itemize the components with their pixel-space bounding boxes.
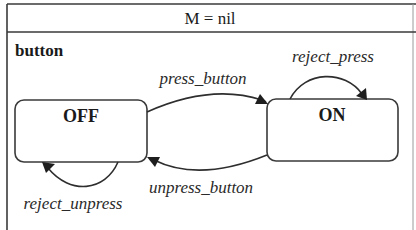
state-off[interactable]: OFF — [15, 100, 147, 162]
state-on[interactable]: ON — [267, 99, 398, 161]
transition-reject-press[interactable]: reject_press — [290, 47, 374, 100]
transition-reject-unpress[interactable]: reject_unpress — [24, 162, 123, 213]
transition-press-button[interactable]: press_button — [147, 69, 268, 112]
state-on-label: ON — [319, 105, 346, 125]
transition-unpress-button[interactable]: unpress_button — [147, 155, 267, 197]
reject-press-edge[interactable] — [290, 77, 362, 99]
state-off-label: OFF — [63, 106, 99, 126]
press-button-label: press_button — [158, 69, 246, 88]
region-label: button — [15, 41, 64, 60]
reject-unpress-arrowhead-icon — [42, 162, 55, 173]
reject-press-label: reject_press — [292, 47, 374, 66]
header-title: M = nil — [184, 9, 235, 28]
unpress-button-label: unpress_button — [149, 178, 253, 197]
press-button-edge[interactable] — [147, 94, 266, 112]
reject-unpress-edge[interactable] — [48, 162, 118, 187]
reject-unpress-label: reject_unpress — [24, 194, 123, 213]
state-machine-diagram: M = nil button OFF ON press_button unpre… — [0, 0, 416, 230]
unpress-button-edge[interactable] — [154, 155, 267, 170]
